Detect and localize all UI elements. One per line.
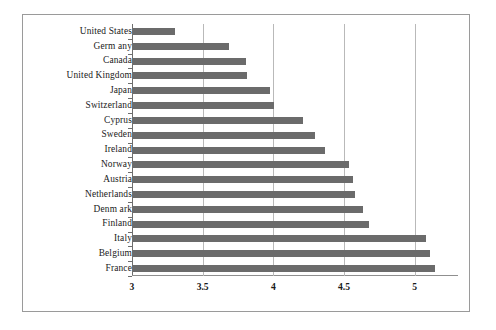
value-tick-label: 4 [271,281,276,292]
bar-netherlands[interactable] [133,191,355,198]
bar-japan[interactable] [133,87,270,94]
bar-denm-ark[interactable] [133,206,363,213]
category-tickmark [128,113,132,114]
category-label-switzerland: Switzerland [23,101,132,110]
value-tick-label: 3.5 [197,281,209,292]
bar-italy[interactable] [133,235,426,242]
category-tickmark [128,157,132,158]
category-label-finland: Finland [23,219,132,228]
category-label-canada: Canada [23,56,132,65]
bar-norway[interactable] [133,161,349,168]
category-tickmark [128,172,132,173]
bar-switzerland[interactable] [133,102,274,109]
chart-plot-wrapper: United StatesGerm anyCanadaUnited Kingdo… [23,15,469,311]
bar-germ-any[interactable] [133,43,229,50]
category-baseline [132,275,458,276]
bar-canada[interactable] [133,58,246,65]
category-label-sweden: Sweden [23,130,132,139]
category-tickmark [128,128,132,129]
category-tickmark [128,217,132,218]
category-label-germ-any: Germ any [23,42,132,51]
category-label-japan: Japan [23,86,132,95]
bar-united-kingdom[interactable] [133,72,247,79]
category-label-united-states: United States [23,27,132,36]
bar-france[interactable] [133,265,435,272]
category-tickmark [128,39,132,40]
value-tick-label: 5 [412,281,417,292]
category-tickmark [128,232,132,233]
category-label-netherlands: Netherlands [23,190,132,199]
category-label-cyprus: Cyprus [23,116,132,125]
category-label-ireland: Ireland [23,145,132,154]
category-tickmark [128,54,132,55]
category-axis: United StatesGerm anyCanadaUnited Kingdo… [23,15,132,311]
category-label-austria: Austria [23,175,132,184]
category-label-france: France [23,264,132,273]
category-tickmark [128,83,132,84]
bar-austria[interactable] [133,176,353,183]
plot-area [132,24,450,276]
category-tickmark [128,261,132,262]
bar-united-states[interactable] [133,28,175,35]
category-tickmark [128,276,132,277]
chart-frame: United StatesGerm anyCanadaUnited Kingdo… [22,14,470,312]
category-label-united-kingdom: United Kingdom [23,71,132,80]
bar-cyprus[interactable] [133,117,303,124]
bar-ireland[interactable] [133,147,325,154]
bar-finland[interactable] [133,221,369,228]
category-tickmark [128,143,132,144]
category-label-belgium: Belgium [23,249,132,258]
category-tickmark [128,187,132,188]
category-tickmark [128,246,132,247]
category-tickmark [128,68,132,69]
category-tickmark [128,98,132,99]
value-axis-ticklabels: 33.544.55 [132,281,450,297]
bar-belgium[interactable] [133,250,430,257]
category-tickmark [128,202,132,203]
value-tick-label: 4.5 [338,281,350,292]
category-label-norway: Norway [23,160,132,169]
category-label-italy: Italy [23,234,132,243]
category-label-denm-ark: Denm ark [23,205,132,214]
value-tick-label: 3 [130,281,135,292]
bar-sweden[interactable] [133,132,315,139]
